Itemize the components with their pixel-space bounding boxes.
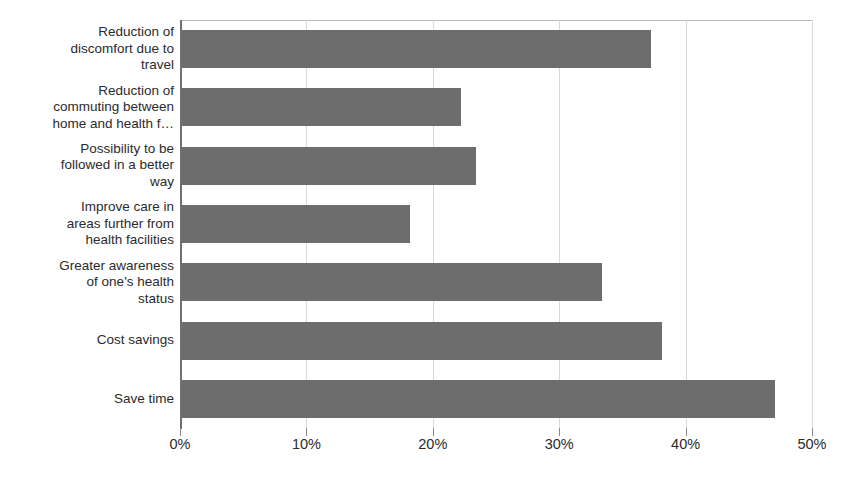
tick-label-0%: 0% (170, 436, 191, 452)
category-label-line: travel (141, 57, 174, 74)
category-label: Cost savings (0, 311, 174, 369)
category-label: Greater awarenessof one's healthstatus (0, 253, 174, 311)
bar[interactable] (180, 380, 775, 418)
tick-mark-10% (306, 428, 307, 436)
category-label-line: Reduction of (98, 83, 174, 100)
category-label-line: Save time (114, 391, 174, 408)
bar-band (180, 20, 812, 78)
category-label-line: Improve care in (81, 199, 174, 216)
bar-band (180, 137, 812, 195)
category-label-line: way (150, 174, 174, 191)
category-label: Improve care inareas further fromhealth … (0, 195, 174, 253)
tick-mark-0% (180, 428, 181, 436)
category-axis-labels: Reduction ofdiscomfort due totravelReduc… (0, 20, 174, 428)
tick-mark-30% (559, 428, 560, 436)
category-label-line: status (138, 291, 174, 308)
gridline-50% (812, 20, 813, 428)
tick-label-40%: 40% (671, 436, 700, 452)
category-label-line: areas further from (67, 216, 174, 233)
bar[interactable] (180, 88, 461, 126)
value-axis-ticks: 0%10%20%30%40%50% (0, 436, 846, 466)
category-label: Save time (0, 370, 174, 428)
tick-mark-40% (686, 428, 687, 436)
tick-label-10%: 10% (292, 436, 321, 452)
bar-band (180, 370, 812, 428)
bar[interactable] (180, 205, 410, 243)
category-label-line: followed in a better (61, 157, 174, 174)
bar[interactable] (180, 30, 651, 68)
category-label-line: Possibility to be (80, 141, 174, 158)
bar-band (180, 311, 812, 369)
tick-mark-20% (433, 428, 434, 436)
tick-label-20%: 20% (418, 436, 447, 452)
bar[interactable] (180, 147, 476, 185)
tick-mark-50% (812, 428, 813, 436)
category-label-line: of one's health (87, 274, 174, 291)
category-label: Reduction ofdiscomfort due totravel (0, 20, 174, 78)
bar-series (180, 20, 812, 428)
category-label-line: Greater awareness (59, 258, 174, 275)
category-label: Possibility to befollowed in a betterway (0, 137, 174, 195)
category-label-line: discomfort due to (70, 41, 174, 58)
category-label-line: Reduction of (98, 24, 174, 41)
category-label-line: commuting between (53, 99, 174, 116)
category-label: Reduction ofcommuting betweenhome and he… (0, 78, 174, 136)
bar[interactable] (180, 263, 602, 301)
tick-label-30%: 30% (545, 436, 574, 452)
tick-label-50%: 50% (797, 436, 826, 452)
plot-area (180, 20, 812, 428)
category-label-line: health facilities (85, 232, 174, 249)
bar-band (180, 253, 812, 311)
bar-chart: Reduction ofdiscomfort due totravelReduc… (0, 0, 846, 478)
bar-band (180, 78, 812, 136)
category-label-line: Cost savings (97, 332, 174, 349)
category-axis-line (180, 20, 182, 429)
bar[interactable] (180, 322, 662, 360)
category-label-line: home and health f… (52, 116, 174, 133)
bar-band (180, 195, 812, 253)
